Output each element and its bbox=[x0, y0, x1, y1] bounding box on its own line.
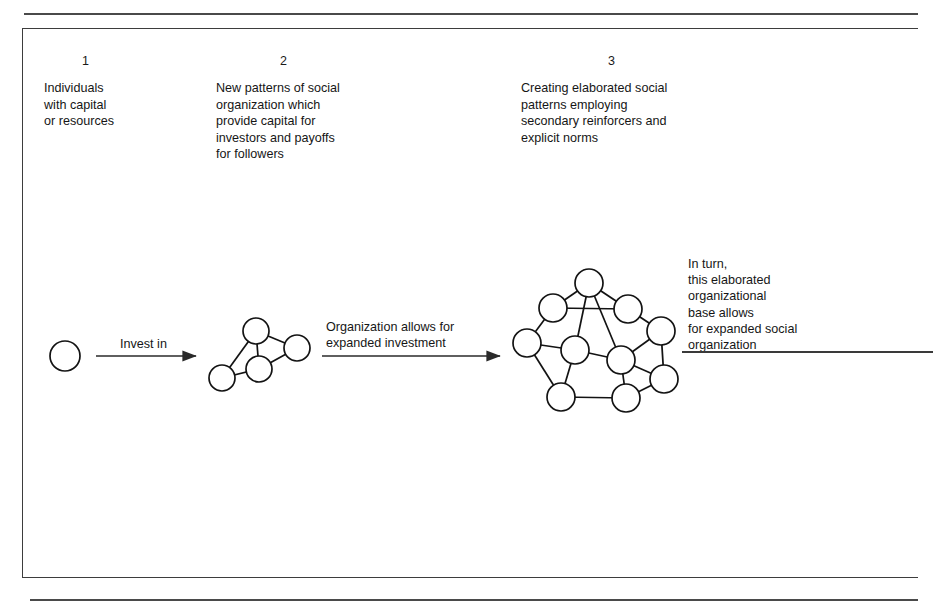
flow-label-in-turn: In turn, this elaborated organizational … bbox=[688, 256, 797, 353]
top-rule bbox=[24, 13, 918, 15]
column-text-1: Individuals with capital or resources bbox=[44, 80, 204, 130]
column-number-3: 3 bbox=[608, 55, 615, 68]
column-number-2: 2 bbox=[280, 55, 287, 68]
figure-page: 1 2 3 Individuals with capital or resour… bbox=[0, 0, 935, 611]
column-number-1: 1 bbox=[82, 55, 89, 68]
flow-label-invest-in: Invest in bbox=[120, 336, 167, 352]
column-text-2: New patterns of social organization whic… bbox=[216, 80, 416, 163]
column-text-3: Creating elaborated social patterns empl… bbox=[521, 80, 751, 146]
bottom-rule bbox=[30, 599, 918, 601]
flow-label-organization-allows: Organization allows for expanded investm… bbox=[326, 319, 454, 351]
